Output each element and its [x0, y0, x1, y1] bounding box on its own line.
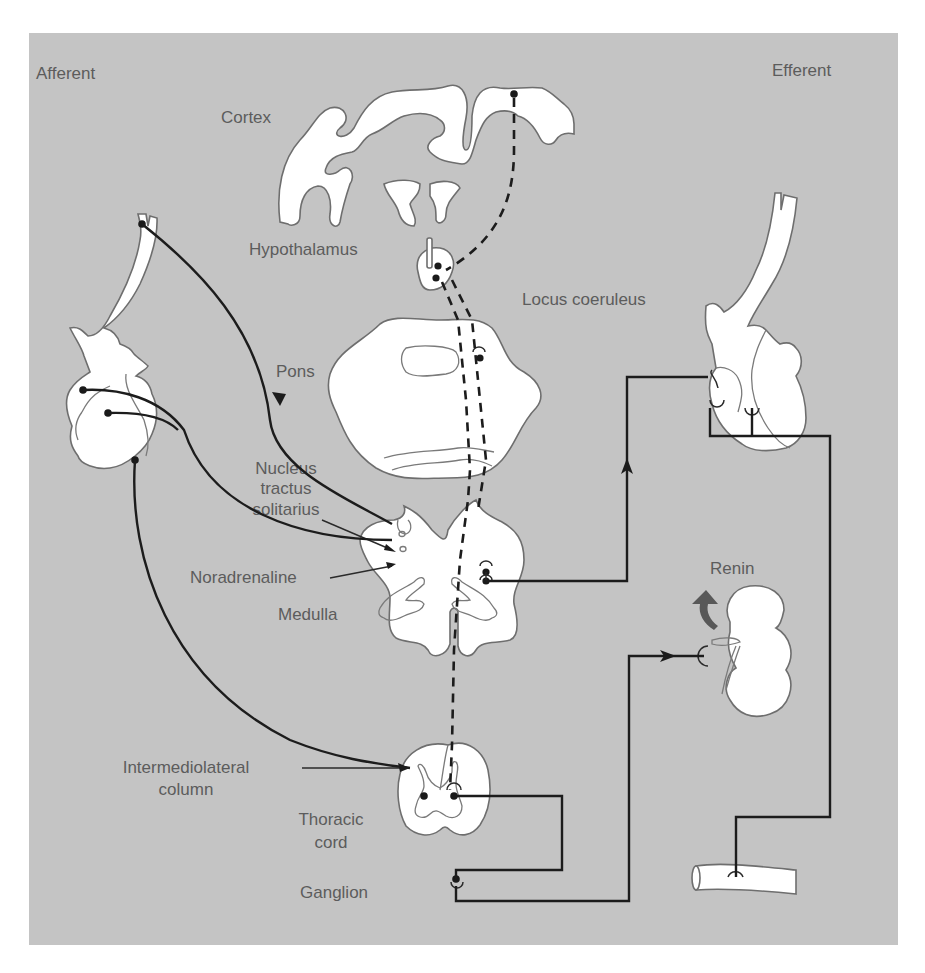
nts-label-line2: tractus	[260, 479, 311, 498]
thoracic-label-line1: Thoracic	[298, 810, 364, 829]
medulla-label: Medulla	[278, 605, 338, 624]
blood-vessel-illustration	[692, 864, 796, 894]
efferent-header: Efferent	[772, 61, 832, 80]
thoracic-label-line2: cord	[314, 833, 347, 852]
renin-label: Renin	[710, 559, 754, 578]
cortex-neuron	[510, 90, 518, 98]
hypothalamus-label: Hypothalamus	[249, 240, 358, 259]
locus-coeruleus-label: Locus coeruleus	[522, 290, 646, 309]
noradrenaline-label: Noradrenaline	[190, 568, 297, 587]
autonomic-cardiovascular-reflex-diagram: Afferent Efferent Cortex Hypothalamus Po…	[0, 0, 925, 973]
iml-label-line1: Intermediolateral	[123, 758, 250, 777]
pons-label: Pons	[276, 362, 315, 381]
afferent-header: Afferent	[36, 64, 96, 83]
ganglion-label: Ganglion	[300, 883, 368, 902]
nts-label-line3: solitarius	[252, 500, 319, 519]
thoracic-cord-illustration	[398, 743, 490, 835]
cortex-label: Cortex	[221, 108, 272, 127]
iml-label-line2: column	[159, 780, 214, 799]
